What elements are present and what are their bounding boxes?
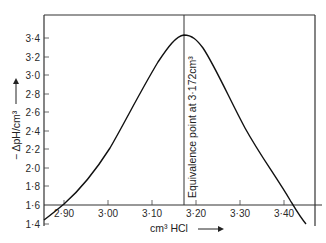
x-tick-labels: 2·90 3·00 3·10 3·20 3·30 3·40 [54, 208, 294, 219]
svg-text:− ΔpH/cm³: − ΔpH/cm³ [10, 110, 22, 160]
svg-text:3·20: 3·20 [186, 208, 206, 219]
y-ticks [44, 38, 49, 224]
data-curve [44, 35, 306, 224]
svg-text:3·30: 3·30 [230, 208, 250, 219]
svg-text:3·4: 3·4 [26, 33, 41, 44]
svg-text:1·4: 1·4 [26, 219, 41, 230]
svg-text:1·8: 1·8 [26, 181, 41, 192]
svg-text:2·8: 2·8 [26, 89, 41, 100]
x-axis-label: cm³ HCl [150, 222, 224, 234]
svg-text:1·6: 1·6 [26, 200, 41, 211]
svg-text:3·0: 3·0 [26, 70, 41, 81]
equivalence-annotation: Equivalence point at 3·172cm³ [186, 56, 198, 198]
y-tick-labels: 1·4 1·6 1·8 2·0 2·2 2·4 2·6 2·8 3·0 3·2 … [26, 33, 41, 230]
svg-text:3·40: 3·40 [274, 208, 294, 219]
svg-text:3·10: 3·10 [142, 208, 162, 219]
svg-text:3·2: 3·2 [26, 52, 41, 63]
x-ticks [64, 200, 284, 205]
y-axis-label: − ΔpH/cm³ [10, 78, 22, 160]
svg-text:2·2: 2·2 [26, 144, 41, 155]
svg-text:2·4: 2·4 [26, 126, 41, 137]
plot-frame [44, 15, 315, 226]
chart: 1·4 1·6 1·8 2·0 2·2 2·4 2·6 2·8 3·0 3·2 … [0, 0, 326, 243]
svg-text:cm³ HCl: cm³ HCl [150, 222, 188, 234]
svg-text:2·6: 2·6 [26, 107, 41, 118]
svg-text:2·0: 2·0 [26, 163, 41, 174]
svg-text:3·00: 3·00 [98, 208, 118, 219]
